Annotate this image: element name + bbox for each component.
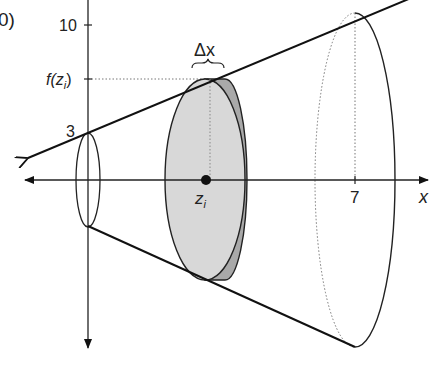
x-axis-label: x <box>418 187 429 207</box>
delta-x-brace <box>192 59 224 68</box>
y-tick-10-label: 10 <box>59 17 77 34</box>
delta-x-label: Δx <box>194 40 215 60</box>
zi-point <box>201 175 211 185</box>
top-left-fragment: 0) <box>0 9 15 30</box>
x-tick-7-label: 7 <box>350 188 359 207</box>
y-tick-fzi-label: f(zi) <box>46 71 72 91</box>
y-intercept-label: 3 <box>66 123 75 140</box>
cone-volume-diagram: 0) 10 f(zi) 3 Δx zi 7 x <box>0 0 434 366</box>
